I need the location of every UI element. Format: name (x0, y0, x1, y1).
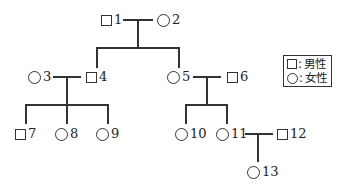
individual-8: 8 (55, 126, 78, 142)
female-circle-icon (157, 14, 170, 27)
legend-male-label: 男性 (304, 57, 326, 71)
individual-label: 5 (182, 69, 190, 85)
individual-12: 12 (277, 126, 307, 142)
child-line-4 (96, 47, 98, 68)
individual-label: 3 (43, 69, 51, 85)
individual-label: 9 (111, 126, 119, 142)
individual-label: 7 (28, 126, 36, 142)
individual-5: 5 (167, 69, 190, 85)
descent-line-5-6 (206, 76, 208, 105)
sibship-line-10-11 (185, 104, 228, 106)
child-line-7 (25, 104, 27, 124)
male-square-icon (15, 129, 26, 140)
individual-label: 8 (70, 126, 78, 142)
legend-male: : 男性 (287, 57, 328, 71)
child-line-8 (66, 104, 68, 124)
individual-label: 10 (190, 126, 207, 142)
legend-separator: : (299, 71, 303, 85)
individual-2: 2 (157, 12, 180, 28)
individual-label: 6 (240, 69, 248, 85)
descent-line-1-2 (137, 19, 139, 49)
female-circle-icon (287, 73, 298, 84)
female-circle-icon (216, 128, 229, 141)
female-circle-icon (55, 128, 68, 141)
descent-line-11-12 (257, 133, 259, 162)
individual-6: 6 (227, 69, 248, 85)
individual-11: 11 (216, 126, 248, 142)
individual-label: 1 (114, 12, 122, 28)
sibship-line-4-5 (96, 47, 180, 49)
couple-line-11-12 (245, 133, 273, 135)
descent-line-3-4 (66, 76, 68, 105)
legend: : 男性 : 女性 (283, 55, 332, 87)
child-line-11 (226, 104, 228, 124)
individual-10: 10 (175, 126, 207, 142)
individual-label: 12 (290, 126, 307, 142)
individual-9: 9 (96, 126, 119, 142)
individual-13: 13 (247, 164, 279, 180)
female-circle-icon (175, 128, 188, 141)
individual-1: 1 (101, 12, 122, 28)
legend-female-label: 女性 (305, 71, 327, 85)
child-line-9 (107, 104, 109, 124)
pedigree-diagram: 1 2 3 4 5 6 7 8 9 (0, 0, 343, 187)
female-circle-icon (28, 71, 41, 84)
male-square-icon (86, 72, 97, 83)
individual-7: 7 (15, 126, 36, 142)
individual-4: 4 (86, 69, 107, 85)
female-circle-icon (96, 128, 109, 141)
child-line-5 (178, 47, 180, 68)
legend-female: : 女性 (287, 71, 328, 85)
male-square-icon (277, 129, 288, 140)
male-square-icon (101, 15, 112, 26)
male-square-icon (227, 72, 238, 83)
female-circle-icon (247, 166, 260, 179)
female-circle-icon (167, 71, 180, 84)
legend-separator: : (298, 57, 302, 71)
individual-label: 4 (99, 69, 107, 85)
individual-3: 3 (28, 69, 51, 85)
child-line-10 (185, 104, 187, 124)
individual-label: 13 (262, 164, 279, 180)
individual-label: 2 (172, 12, 180, 28)
male-square-icon (287, 59, 297, 69)
